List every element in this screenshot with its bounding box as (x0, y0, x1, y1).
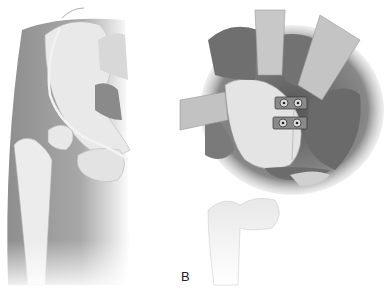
plate-lower (273, 117, 307, 129)
panel-label-b: B (181, 269, 190, 284)
plate-upper (275, 97, 307, 109)
panel-b (180, 10, 384, 285)
panel-a (0, 8, 140, 292)
anatomy-illustration (0, 0, 388, 292)
figure-canvas: B (0, 0, 388, 292)
